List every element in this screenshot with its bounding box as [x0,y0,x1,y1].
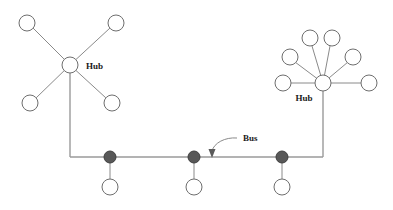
left-node-bottom-right[interactable] [104,95,120,111]
bus-station-nodes [102,179,290,195]
left-node-top-left[interactable] [19,15,35,31]
bus-tap-node-2[interactable] [188,151,200,163]
left-hub-node[interactable] [62,57,78,73]
left-node-bottom-left[interactable] [22,95,38,111]
bus-callout-leader-line [212,138,237,151]
right-node-top-right[interactable] [324,30,340,46]
bus-tap-node-1[interactable] [104,151,116,163]
right-node-upper-left[interactable] [282,49,298,65]
right-node-upper-right[interactable] [345,49,361,65]
left-hub-label: Hub [86,61,103,71]
right-hub-node[interactable] [315,75,331,91]
bus-station-node-1[interactable] [102,179,118,195]
topology-canvas: Hub Hub [0,0,393,210]
right-node-left[interactable] [275,75,291,91]
right-node-top-left[interactable] [302,30,318,46]
right-node-right[interactable] [361,75,377,91]
bus-station-node-2[interactable] [186,179,202,195]
bus-tap-node-3[interactable] [276,151,288,163]
left-node-top-right[interactable] [108,15,124,31]
right-hub-label: Hub [295,93,312,103]
network-topology-diagram: Hub Hub [0,0,393,210]
bus-station-node-3[interactable] [274,179,290,195]
bus-label: Bus [243,133,258,143]
